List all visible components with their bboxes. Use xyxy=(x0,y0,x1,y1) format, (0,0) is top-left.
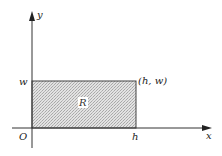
corner-point-label: (h, w) xyxy=(138,75,167,86)
x-tick-label-h: h xyxy=(132,131,138,142)
origin-label: O xyxy=(19,131,27,142)
coordinate-diagram: y x O h w (h, w) R xyxy=(0,0,222,156)
y-axis-label: y xyxy=(36,9,43,20)
region-label: R xyxy=(78,97,87,108)
y-tick-label-w: w xyxy=(19,76,28,87)
x-axis-label: x xyxy=(206,130,212,141)
y-axis-arrow-icon xyxy=(29,11,35,21)
